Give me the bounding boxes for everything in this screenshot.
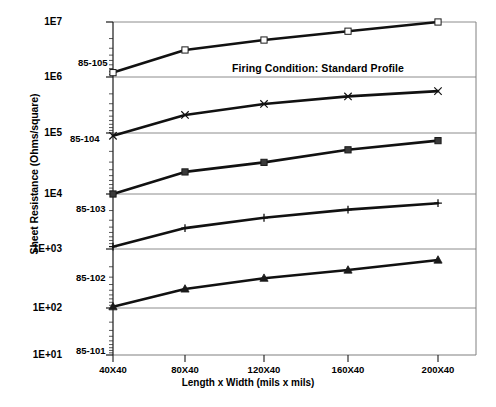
series-85-102 (109, 199, 442, 250)
series-85-104 (109, 87, 441, 139)
series-85-101 (109, 256, 442, 310)
x-axis-title: Length x Width (mils x mils) (0, 377, 496, 388)
y-tick-label: 1E4 (6, 189, 62, 199)
series-label-85-105: 85-105 (78, 57, 108, 68)
x-tick-label: 200X40 (403, 364, 473, 375)
series-85-103 (110, 138, 441, 198)
chart-figure: Sheet Resistance (Ohms/square) 1E71E61E5… (0, 0, 496, 407)
series-label-85-103: 85-103 (76, 203, 106, 214)
y-tick-label: 1E5 (6, 128, 62, 138)
series-label-85-104: 85-104 (70, 133, 100, 144)
y-tick-label: 1E7 (6, 17, 62, 27)
series-label-85-102: 85-102 (76, 272, 106, 283)
x-tick-label: 80X40 (150, 364, 220, 375)
y-tick-label: 1E+03 (6, 244, 62, 254)
x-tick-label: 120X40 (229, 364, 299, 375)
y-tick-label: 1E+01 (6, 350, 62, 360)
chart-annotation: Firing Condition: Standard Profile (232, 62, 404, 74)
y-tick-label: 1E6 (6, 72, 62, 82)
y-tick-label: 1E+02 (6, 303, 62, 313)
x-tick-label: 40X40 (78, 364, 148, 375)
series-label-85-101: 85-101 (76, 345, 106, 356)
y-axis-tick-labels: 1E71E61E51E41E+031E+021E+01 (0, 0, 62, 407)
x-axis-ticks (113, 355, 438, 362)
x-tick-label: 160X40 (313, 364, 383, 375)
